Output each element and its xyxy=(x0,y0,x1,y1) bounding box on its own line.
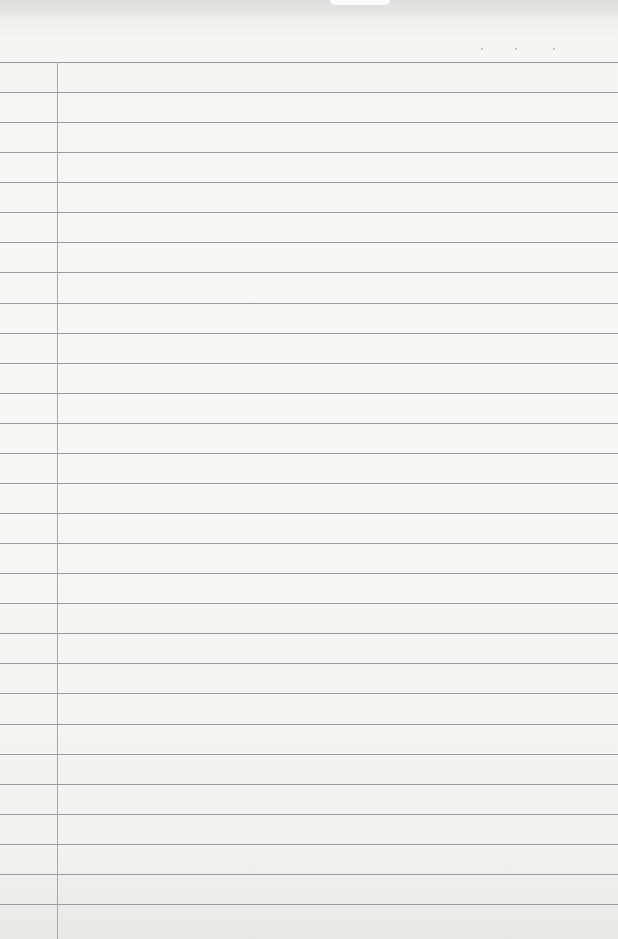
ruled-line xyxy=(0,182,618,183)
lined-paper xyxy=(0,0,618,939)
ruled-line xyxy=(0,62,618,63)
ruled-line xyxy=(0,212,618,213)
ruled-line xyxy=(0,152,618,153)
ruled-line xyxy=(0,453,618,454)
ruled-line xyxy=(0,573,618,574)
ruled-line xyxy=(0,693,618,694)
ruled-line xyxy=(0,483,618,484)
ruled-line xyxy=(0,543,618,544)
ruled-line xyxy=(0,814,618,815)
ruled-line xyxy=(0,663,618,664)
ruled-line xyxy=(0,303,618,304)
ruled-line xyxy=(0,754,618,755)
ruled-line xyxy=(0,272,618,273)
margin-line xyxy=(57,62,58,939)
ruled-line xyxy=(0,363,618,364)
paper-speck xyxy=(481,48,483,50)
top-edge-shadow xyxy=(0,0,618,20)
paper-speck xyxy=(553,48,555,50)
ruled-line xyxy=(0,633,618,634)
ruled-line xyxy=(0,603,618,604)
ruled-line xyxy=(0,874,618,875)
top-edge-glare xyxy=(330,0,390,5)
paper-speck xyxy=(515,48,517,50)
ruled-line xyxy=(0,242,618,243)
ruled-line xyxy=(0,423,618,424)
ruled-line xyxy=(0,333,618,334)
ruled-line xyxy=(0,784,618,785)
ruled-line xyxy=(0,122,618,123)
ruled-line xyxy=(0,844,618,845)
ruled-line xyxy=(0,724,618,725)
ruled-line xyxy=(0,92,618,93)
ruled-line xyxy=(0,513,618,514)
ruled-line xyxy=(0,393,618,394)
ruled-line xyxy=(0,904,618,905)
